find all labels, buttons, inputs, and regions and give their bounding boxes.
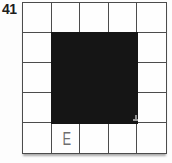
grid-cell xyxy=(23,123,52,153)
filled-square xyxy=(51,32,139,124)
grid-cell xyxy=(80,3,109,33)
grid-cell xyxy=(23,3,52,33)
puzzle-figure: 41 E xyxy=(0,0,172,163)
answer-cell: E xyxy=(52,123,81,153)
grid-cell xyxy=(52,3,81,33)
grid-cell xyxy=(23,93,52,123)
grid-cell xyxy=(109,123,138,153)
grid-cell xyxy=(137,93,166,123)
grid-cell xyxy=(137,3,166,33)
grid-cell xyxy=(80,123,109,153)
grid-cell xyxy=(137,63,166,93)
grid-cell xyxy=(137,123,166,153)
grid: E xyxy=(22,2,167,154)
grid-cell xyxy=(109,3,138,33)
scan-artifact xyxy=(135,115,137,121)
answer-letter: E xyxy=(61,129,72,148)
grid-cell xyxy=(137,33,166,63)
grid-cell xyxy=(23,63,52,93)
grid-cell xyxy=(23,33,52,63)
item-number: 41 xyxy=(2,2,17,16)
